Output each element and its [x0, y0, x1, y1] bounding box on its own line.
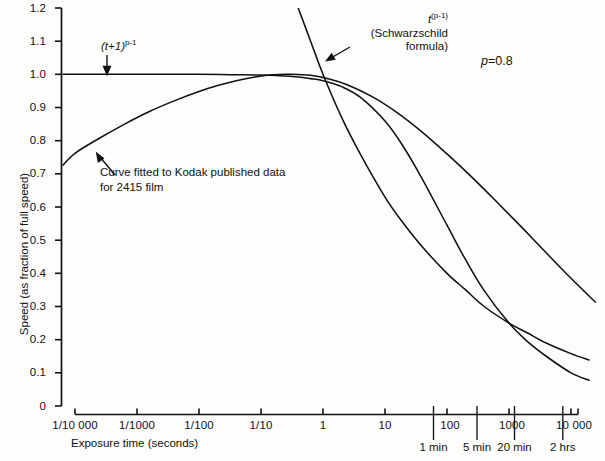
y-tick-label-1.2: 1.2 — [6, 2, 46, 14]
time-label-5min: 5 min — [463, 441, 491, 453]
curve-schwarzschild — [298, 8, 589, 360]
annotation-schwarzschild-exponent: (p-1) — [431, 11, 448, 20]
annotation-schwarzschild-line1: t(p-1) — [352, 13, 448, 27]
x-tick-label-1-1000: 1/1000 — [119, 419, 155, 431]
x-tick-label-10000: 10 000 — [556, 419, 592, 431]
y-tick-label-1.1: 1.1 — [6, 35, 46, 47]
annotation-kodak-line1: Curve fitted to Kodak published data — [100, 165, 285, 180]
x-axis-ticks — [75, 409, 578, 415]
figure-chart: 1.2 1.1 1.0 0.9 0.8 0.7 0.6 0.5 0.4 0.3 … — [0, 0, 605, 461]
y-tick-label-0.9: 0.9 — [6, 101, 46, 113]
annotation-t-plus-1: (t+1)p-1 — [101, 40, 137, 54]
time-label-1min: 1 min — [419, 441, 447, 453]
y-tick-label-0.1: 0.1 — [6, 366, 46, 378]
annotation-p-value: p=0.8 — [481, 55, 513, 69]
arrow-schwarzschild — [327, 47, 351, 61]
annotation-kodak-line2: for 2415 film — [100, 180, 285, 195]
x-axis-title: Exposure time (seconds) — [71, 437, 198, 449]
annotation-t-plus-1-exponent: p-1 — [125, 38, 137, 47]
x-tick-label-1: 1 — [320, 419, 327, 431]
annotation-p-symbol: p — [481, 54, 488, 68]
annotation-t-plus-1-base: (t+1) — [101, 40, 125, 52]
x-tick-label-100: 100 — [440, 419, 460, 431]
time-label-2hrs: 2 hrs — [550, 441, 576, 453]
plot-area — [0, 0, 605, 461]
annotation-kodak: Curve fitted to Kodak published data for… — [100, 165, 285, 195]
annotation-schwarzschild-line2: (Schwarzschild — [352, 27, 448, 41]
x-tick-label-1-10: 1/10 — [250, 419, 273, 431]
time-label-20min: 20 min — [497, 441, 532, 453]
y-axis-ticks — [55, 8, 62, 406]
y-tick-label-0.8: 0.8 — [6, 134, 46, 146]
y-axis-title: Speed (as fraction of full speed) — [18, 154, 30, 354]
annotation-schwarzschild-line3: formula) — [352, 40, 448, 54]
curve-t-plus-1 — [63, 74, 590, 380]
x-tick-label-10: 10 — [379, 419, 392, 431]
x-tick-label-1-100: 1/100 — [184, 419, 213, 431]
x-tick-label-1-10000: 1/10 000 — [52, 419, 98, 431]
y-tick-label-1.0: 1.0 — [6, 68, 46, 80]
y-tick-label-0: 0 — [6, 400, 46, 412]
annotation-p-equals: =0.8 — [488, 54, 513, 68]
annotation-schwarzschild: t(p-1) (Schwarzschild formula) — [352, 13, 448, 54]
x-tick-label-1000: 1000 — [499, 419, 525, 431]
arrow-t-plus-1 — [104, 55, 111, 75]
